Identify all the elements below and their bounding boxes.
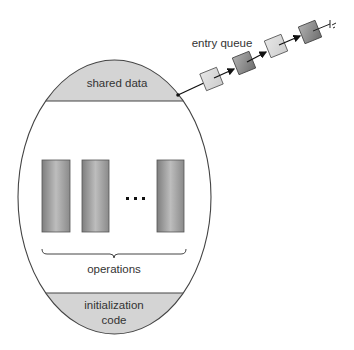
queue-item-1 bbox=[200, 67, 223, 90]
ellipsis-dots bbox=[126, 197, 145, 200]
queue-attach-point bbox=[176, 93, 180, 97]
initialization-label: initialization bbox=[74, 298, 154, 312]
queue-item-4 bbox=[298, 20, 321, 43]
queue-item-3 bbox=[264, 34, 287, 57]
operation-block-2 bbox=[82, 160, 109, 232]
queue-item-2 bbox=[232, 51, 255, 74]
monitor-diagram bbox=[0, 0, 354, 350]
operation-block-1 bbox=[42, 160, 70, 232]
entry-queue-label: entry queue bbox=[191, 36, 253, 50]
shared-data-label: shared data bbox=[77, 76, 157, 90]
queue-link-0 bbox=[178, 82, 206, 95]
operation-block-n bbox=[157, 160, 184, 232]
operations-label: operations bbox=[74, 262, 154, 276]
shared-data-section bbox=[0, 0, 354, 101]
entry-queue bbox=[176, 20, 336, 97]
code-label: code bbox=[74, 313, 154, 327]
